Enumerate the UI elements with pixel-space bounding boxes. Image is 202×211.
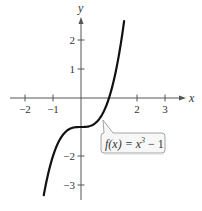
axes: x y <box>10 1 195 200</box>
y-tick-label: 2 <box>70 34 76 46</box>
x-tick-label: 3 <box>162 103 168 115</box>
y-axis-arrow-icon <box>79 17 84 24</box>
x-axis-label: x <box>188 91 195 105</box>
function-label-callout: f(x) = x3 − 1 <box>101 120 165 154</box>
x-tick-label: 2 <box>134 103 140 115</box>
x-tick-label: −1 <box>47 103 59 115</box>
y-tick-label: 1 <box>70 63 76 75</box>
function-graph: x y −2−123 21−2−3 f(x) = x3 − 1 <box>0 0 202 211</box>
x-tick-label: −2 <box>19 103 31 115</box>
y-tick-label: −3 <box>63 179 75 191</box>
x-axis-arrow-icon <box>179 96 186 101</box>
function-label: f(x) = x3 − 1 <box>105 136 164 151</box>
y-tick-label: −2 <box>63 150 75 162</box>
y-axis-label: y <box>77 1 84 15</box>
